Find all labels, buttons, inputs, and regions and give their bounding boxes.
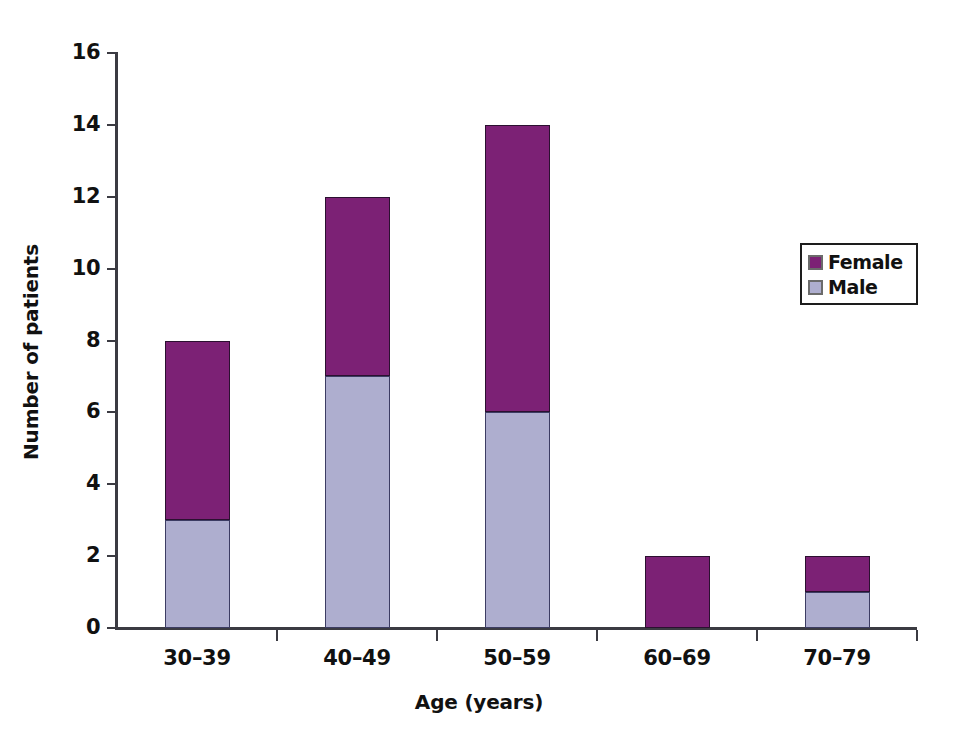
bar-segment-female (165, 341, 230, 521)
y-tick-label: 6 (52, 401, 100, 422)
chart-figure: Number of patients 0246810121416 30–3940… (0, 0, 958, 751)
bar-segment-male (325, 376, 390, 628)
bar-stack (645, 53, 710, 628)
x-tick-mark (916, 630, 918, 641)
y-tick-label: 8 (52, 330, 100, 351)
x-tick-label: 30–39 (117, 648, 277, 669)
y-tick-mark (107, 411, 116, 413)
y-tick-mark (107, 555, 116, 557)
y-tick-label: 16 (52, 42, 100, 63)
legend-label-female: Female (828, 253, 903, 272)
x-axis-title: Age (years) (0, 690, 958, 714)
x-tick-mark (756, 630, 758, 641)
y-tick-label: 14 (52, 114, 100, 135)
y-tick-mark (107, 196, 116, 198)
y-axis-title: Number of patients (19, 237, 43, 467)
bar-segment-male (485, 412, 550, 628)
x-tick-label: 60–69 (597, 648, 757, 669)
x-tick-label: 50–59 (437, 648, 597, 669)
bar-stack (325, 53, 390, 628)
bar-segment-female (645, 556, 710, 628)
legend-label-male: Male (828, 278, 878, 297)
bar-segment-female (325, 197, 390, 377)
bar-segment-female (805, 556, 870, 592)
bar-segment-male (165, 520, 230, 628)
bar-segment-female (485, 125, 550, 413)
legend-swatch-female-icon (808, 255, 823, 270)
legend-swatch-male-icon (808, 280, 823, 295)
bar-stack (485, 53, 550, 628)
y-tick-mark (107, 124, 116, 126)
legend-item-female: Female (808, 250, 916, 275)
x-tick-mark (276, 630, 278, 641)
y-tick-label: 12 (52, 186, 100, 207)
chart-legend: Female Male (800, 243, 918, 305)
bar-segment-male (805, 592, 870, 628)
y-tick-mark (107, 340, 116, 342)
x-tick-label: 40–49 (277, 648, 437, 669)
y-tick-mark (107, 268, 116, 270)
y-tick-mark (107, 627, 116, 629)
x-tick-mark (596, 630, 598, 641)
x-tick-mark (436, 630, 438, 641)
legend-item-male: Male (808, 275, 916, 300)
y-tick-mark (107, 483, 116, 485)
y-tick-label: 4 (52, 473, 100, 494)
bar-stack (165, 53, 230, 628)
bar-stack (805, 53, 870, 628)
y-tick-label: 2 (52, 545, 100, 566)
y-tick-label: 10 (52, 258, 100, 279)
y-tick-label: 0 (52, 617, 100, 638)
y-tick-mark (107, 52, 116, 54)
x-tick-label: 70–79 (757, 648, 917, 669)
